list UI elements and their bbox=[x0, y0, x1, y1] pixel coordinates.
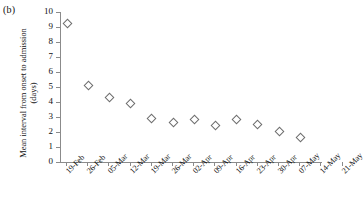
data-point bbox=[62, 19, 72, 29]
y-axis-tick: 3 bbox=[56, 117, 60, 118]
y-axis-tick-label: 2 bbox=[49, 126, 54, 137]
data-point bbox=[232, 115, 242, 125]
x-axis-tick-label: 23-Apr bbox=[255, 153, 278, 176]
data-point bbox=[274, 127, 284, 137]
y-axis-tick-label: 0 bbox=[49, 156, 54, 167]
data-point bbox=[83, 80, 93, 90]
x-axis-tick-label: 19-Mar bbox=[149, 152, 172, 175]
data-point bbox=[147, 113, 157, 123]
data-point bbox=[104, 92, 114, 102]
y-axis-tick: 6 bbox=[56, 72, 60, 73]
x-axis-tick-label: 26-Feb bbox=[85, 153, 107, 175]
x-axis-tick-label: 19-Feb bbox=[64, 153, 86, 175]
y-axis-tick-label: 3 bbox=[49, 111, 54, 122]
y-axis-tick: 2 bbox=[56, 132, 60, 133]
x-axis-tick-label: 16-Apr bbox=[234, 153, 257, 176]
y-axis-tick: 9 bbox=[56, 27, 60, 28]
x-axis-tick-label: 05-Mar bbox=[106, 152, 129, 175]
y-axis-tick-label: 7 bbox=[49, 51, 54, 62]
y-axis-tick: 1 bbox=[56, 147, 60, 148]
y-axis-tick: 8 bbox=[56, 42, 60, 43]
y-axis-tick-label: 1 bbox=[49, 141, 54, 152]
y-axis-tick-label: 4 bbox=[49, 96, 54, 107]
x-axis-tick-label: 12-Mar bbox=[128, 152, 151, 175]
y-axis-tick: 0 bbox=[56, 162, 60, 163]
y-axis-tick-label: 6 bbox=[49, 66, 54, 77]
data-point bbox=[189, 115, 199, 125]
y-axis-line bbox=[60, 12, 61, 163]
y-axis-tick: 4 bbox=[56, 102, 60, 103]
y-axis-tick-label: 9 bbox=[49, 21, 54, 32]
y-axis-tick-label: 8 bbox=[49, 36, 54, 47]
y-axis-tick: 10 bbox=[56, 12, 60, 13]
x-axis-tick-label: 21-May bbox=[340, 151, 364, 175]
data-point bbox=[210, 121, 220, 131]
x-axis-tick-label: 07-May bbox=[297, 151, 321, 175]
panel-label: (b) bbox=[3, 4, 15, 15]
x-axis-tick-label: 02-Apr bbox=[191, 153, 214, 176]
x-axis-tick-label: 26-Mar bbox=[170, 152, 193, 175]
y-axis-title: Mean interval from onset to admission (d… bbox=[19, 13, 39, 173]
y-axis-tick-label: 10 bbox=[44, 6, 53, 17]
plot-area: 012345678910 19-Feb26-Feb05-Mar12-Mar19-… bbox=[60, 12, 322, 163]
data-point bbox=[253, 119, 263, 129]
y-axis-tick: 7 bbox=[56, 57, 60, 58]
data-point bbox=[295, 133, 305, 143]
y-axis-tick-label: 5 bbox=[49, 81, 54, 92]
y-axis-tick: 5 bbox=[56, 87, 60, 88]
data-point bbox=[168, 118, 178, 128]
x-axis-tick-label: 30-Apr bbox=[276, 153, 299, 176]
x-axis-tick-label: 09-Apr bbox=[212, 153, 235, 176]
data-point bbox=[126, 98, 136, 108]
x-axis-tick-label: 14-May bbox=[318, 151, 342, 175]
